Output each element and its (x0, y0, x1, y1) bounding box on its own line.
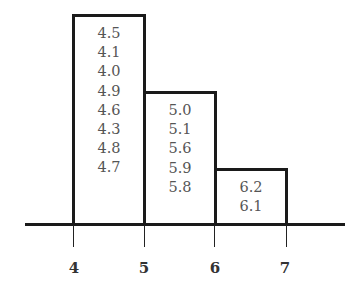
value: 5.6 (168, 139, 191, 158)
value: 5.0 (168, 101, 191, 120)
value: 6.1 (239, 197, 262, 216)
tick-4 (73, 225, 74, 247)
bin-4-5: 4.5 4.1 4.0 4.9 4.6 4.3 4.8 4.7 (72, 14, 146, 226)
bin-values: 4.5 4.1 4.0 4.9 4.6 4.3 4.8 4.7 (75, 24, 143, 178)
value: 5.1 (168, 120, 191, 139)
tick-7 (286, 225, 287, 247)
value: 4.1 (97, 43, 120, 62)
bin-values: 6.2 6.1 (217, 178, 285, 216)
tick-label-6: 6 (205, 259, 225, 277)
bin-5-6: 5.0 5.1 5.6 5.9 5.8 (143, 91, 217, 226)
value: 4.9 (97, 82, 120, 101)
value: 6.2 (239, 178, 262, 197)
value: 5.9 (168, 159, 191, 178)
tick-label-4: 4 (64, 259, 84, 277)
bin-6-7: 6.2 6.1 (214, 168, 288, 226)
value: 4.3 (97, 120, 120, 139)
value: 4.0 (97, 62, 120, 81)
tick-5 (144, 225, 145, 247)
tick-6 (214, 225, 215, 247)
tick-label-7: 7 (275, 259, 295, 277)
value: 5.8 (168, 178, 191, 197)
value: 4.6 (97, 101, 120, 120)
value: 4.7 (97, 158, 120, 177)
value: 4.8 (97, 139, 120, 158)
value: 4.5 (97, 24, 120, 43)
tick-label-5: 5 (134, 259, 154, 277)
bin-values: 5.0 5.1 5.6 5.9 5.8 (146, 101, 214, 197)
